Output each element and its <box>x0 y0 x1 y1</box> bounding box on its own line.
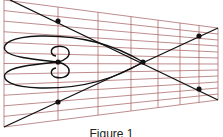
figure-caption: Figure 1 <box>0 127 223 137</box>
point-dot <box>140 59 145 64</box>
grid-horizontal-line <box>4 88 218 106</box>
grid-horizontal-line <box>4 94 218 116</box>
diagonal-line <box>10 0 218 100</box>
grid-horizontal-line <box>4 100 218 127</box>
grid-horizontal-line <box>4 70 218 74</box>
grid-horizontal-line <box>4 53 218 58</box>
perspective-grid-figure <box>0 0 223 137</box>
perspective-grid <box>4 0 218 127</box>
heart-loop-curves <box>4 36 143 88</box>
point-dot <box>55 18 60 23</box>
point-dot <box>55 99 60 104</box>
point-dot <box>196 86 201 91</box>
point-dot <box>196 33 201 38</box>
point-dot <box>55 59 60 64</box>
